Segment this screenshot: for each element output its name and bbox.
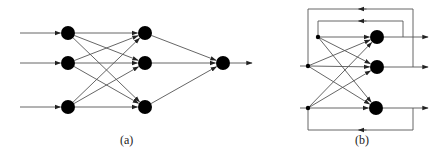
- output-neuron-node: [216, 56, 230, 70]
- caption-b: (b): [355, 133, 369, 147]
- hidden-neuron-node: [138, 26, 152, 40]
- connection-edge: [309, 71, 370, 107]
- connection-edge: [152, 36, 216, 61]
- hidden-neuron-node: [138, 100, 152, 114]
- input-neuron-node: [61, 26, 75, 40]
- connection-edge: [309, 40, 370, 66]
- input-junction-dot: [306, 64, 310, 68]
- feedforward-network-diagram: [20, 26, 252, 114]
- recurrent-neuron-node: [370, 30, 384, 44]
- connection-edge: [309, 67, 369, 104]
- recurrent-network-diagram: [300, 9, 428, 130]
- feedback-loop-inner-top: [318, 21, 403, 37]
- hidden-neuron-node: [138, 56, 152, 70]
- connection-edge: [309, 66, 369, 67]
- connection-edge: [151, 67, 216, 104]
- recurrent-neuron-node: [369, 101, 383, 115]
- recurrent-neuron-node: [370, 60, 384, 74]
- neural-network-figure: (a) (b): [0, 0, 448, 157]
- feedback-loop-bottom: [308, 108, 413, 130]
- input-neuron-node: [61, 56, 75, 70]
- input-neuron-node: [61, 100, 75, 114]
- caption-a: (a): [120, 133, 133, 147]
- input-junction-dot: [316, 35, 320, 39]
- input-junction-dot: [306, 106, 310, 110]
